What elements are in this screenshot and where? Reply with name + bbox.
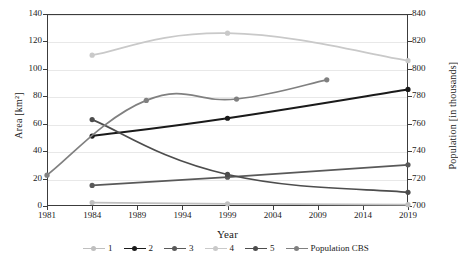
data-point: [225, 172, 230, 177]
y-axis-left-tick-label: 140: [14, 8, 42, 18]
x-axis-tick-label: 1984: [72, 210, 112, 220]
legend-item-2[interactable]: 2: [124, 243, 154, 253]
legend-item-3[interactable]: 3: [164, 243, 194, 253]
data-point: [405, 162, 410, 167]
legend-item-5[interactable]: 5: [245, 243, 275, 253]
data-point: [90, 117, 95, 122]
x-axis-tick-label: 1999: [208, 210, 248, 220]
y-axis-left-tick-label: 80: [14, 90, 42, 100]
y-axis-left-tick-label: 100: [14, 63, 42, 73]
y-axis-left-tick-label: 60: [14, 118, 42, 128]
legend-item-label: 1: [107, 243, 113, 253]
x-axis-tick-mark: [137, 206, 138, 210]
y-axis-right-tick-label: 760: [412, 118, 442, 128]
legend-item-label: 3: [188, 243, 194, 253]
y-axis-left-tick-label: 20: [14, 173, 42, 183]
y-axis-right-tick-mark: [408, 96, 412, 97]
data-point: [44, 173, 49, 178]
y-axis-right-tick-mark: [408, 69, 412, 70]
legend-item-1[interactable]: 1: [83, 243, 113, 253]
y-axis-right-tick-label: 840: [412, 8, 442, 18]
legend-swatch-icon: [286, 244, 308, 253]
data-point: [90, 183, 95, 188]
data-point: [405, 87, 410, 92]
series-2: [90, 87, 411, 139]
x-axis-tick-mark: [318, 206, 319, 210]
x-axis-tick-mark: [228, 206, 229, 210]
data-point: [405, 202, 410, 207]
x-axis-tick-mark: [182, 206, 183, 210]
y-axis-right-tick-mark: [408, 14, 412, 15]
y-axis-right-tick-mark: [408, 41, 412, 42]
series-line: [47, 80, 327, 175]
legend-swatch-icon: [245, 244, 267, 253]
y-axis-right-tick-label: 720: [412, 173, 442, 183]
legend-swatch-icon: [124, 244, 146, 253]
y-axis-left-tick-label: 120: [14, 35, 42, 45]
data-point: [225, 201, 230, 206]
x-axis-tick-mark: [363, 206, 364, 210]
y-axis-right-tick-label: 740: [412, 145, 442, 155]
series-4: [90, 31, 411, 64]
series-layer: [47, 14, 408, 206]
data-point: [225, 116, 230, 121]
y-axis-right-tick-label: 700: [412, 200, 442, 210]
data-point: [324, 77, 329, 82]
x-axis-tick-label: 2014: [343, 210, 383, 220]
legend-item-label: 5: [269, 243, 275, 253]
series-3: [90, 162, 411, 188]
y-axis-left-tick-label: 0: [14, 200, 42, 210]
x-axis-tick-mark: [92, 206, 93, 210]
legend-item-label: Population CBS: [310, 243, 369, 253]
y-axis-right-tick-mark: [408, 124, 412, 125]
x-axis-title: Year: [47, 228, 408, 240]
series-line: [92, 33, 408, 60]
legend-item-label: 2: [148, 243, 154, 253]
y-axis-right-tick-mark: [408, 179, 412, 180]
legend-item-population-cbs[interactable]: Population CBS: [286, 243, 369, 253]
x-axis-tick-label: 2009: [298, 210, 338, 220]
x-axis-tick-label: 1981: [27, 210, 67, 220]
x-axis-tick-mark: [273, 206, 274, 210]
y-axis-right-tick-mark: [408, 151, 412, 152]
chart-legend: 12345Population CBS: [0, 243, 452, 253]
data-point: [405, 58, 410, 63]
series-line: [92, 203, 408, 205]
data-point: [90, 53, 95, 58]
data-point: [90, 200, 95, 205]
legend-item-4[interactable]: 4: [205, 243, 235, 253]
y-axis-right-title: Population [in thousands]: [447, 36, 458, 196]
y-axis-right-tick-label: 780: [412, 90, 442, 100]
legend-item-label: 4: [229, 243, 235, 253]
y-axis-left-tick-label: 40: [14, 145, 42, 155]
data-point: [405, 190, 410, 195]
x-axis-tick-label: 1989: [117, 210, 157, 220]
series-line: [92, 165, 408, 186]
x-axis-tick-label: 1994: [162, 210, 202, 220]
legend-swatch-icon: [83, 244, 105, 253]
data-point: [225, 31, 230, 36]
data-point: [144, 98, 149, 103]
legend-swatch-icon: [164, 244, 186, 253]
x-axis-tick-label: 2004: [253, 210, 293, 220]
x-axis-tick-mark: [47, 206, 48, 210]
y-axis-right-tick-label: 800: [412, 63, 442, 73]
legend-swatch-icon: [205, 244, 227, 253]
data-point: [234, 96, 239, 101]
y-axis-right-tick-label: 820: [412, 35, 442, 45]
x-axis-tick-label: 2019: [388, 210, 428, 220]
